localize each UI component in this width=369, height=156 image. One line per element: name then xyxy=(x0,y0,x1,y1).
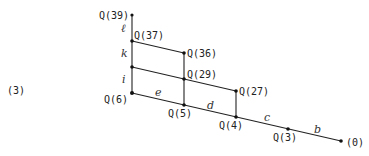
edge-label-k: k xyxy=(121,47,128,60)
label-q36: Q(36) xyxy=(187,48,217,59)
node-mid-left xyxy=(130,65,134,69)
label-q29: Q(29) xyxy=(187,69,217,80)
label-q5: Q(5) xyxy=(168,108,192,119)
edge-label-l: ℓ xyxy=(121,22,126,35)
node-q27 xyxy=(234,89,238,93)
node-q0 xyxy=(339,139,343,143)
node-q5 xyxy=(182,103,186,107)
lattice-diagram: (3) Q(39) Q(37) Q(36) Q(29) Q(27) Q(6) Q… xyxy=(0,0,369,156)
edge-label-d: d xyxy=(207,99,214,112)
node-q6 xyxy=(130,91,134,95)
edge-label-i: i xyxy=(122,73,126,86)
edge-label-e: e xyxy=(155,86,162,99)
edge-label-c: c xyxy=(264,111,270,124)
equation-number: (3) xyxy=(7,85,25,96)
node-q3 xyxy=(286,127,290,131)
label-q27: Q(27) xyxy=(239,86,269,97)
node-q36 xyxy=(182,51,186,55)
label-q39: Q(39) xyxy=(99,10,129,21)
edge-q37-q36 xyxy=(132,41,184,53)
node-q29 xyxy=(182,77,186,81)
edge-label-b: b xyxy=(314,123,321,136)
node-q39 xyxy=(130,13,133,16)
label-q3: Q(3) xyxy=(273,132,297,143)
label-q37: Q(37) xyxy=(134,30,164,41)
node-q4 xyxy=(234,115,238,119)
label-q4: Q(4) xyxy=(219,120,243,131)
label-q0: (0) xyxy=(346,137,364,148)
label-q6: Q(6) xyxy=(104,94,128,105)
